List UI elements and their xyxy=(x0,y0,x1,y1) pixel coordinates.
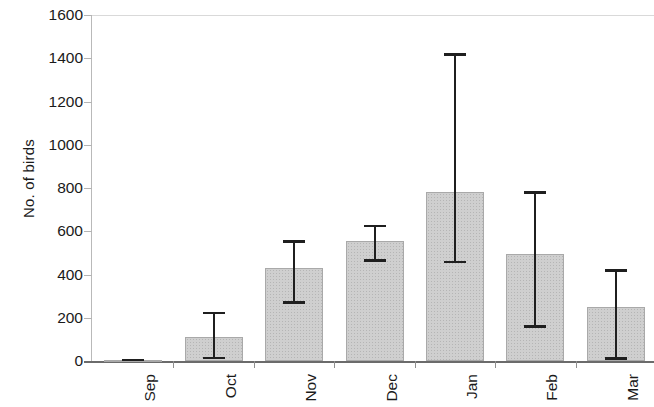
error-bar-cap-lower xyxy=(524,325,546,328)
x-tick-mark xyxy=(334,361,335,368)
x-tick-label: Feb xyxy=(543,374,561,407)
error-bar-cap-upper xyxy=(283,240,305,243)
y-tick-mark xyxy=(84,145,92,146)
y-axis-tick-labels: 02004006008001000120014001600 xyxy=(0,0,83,407)
y-tick-label: 1200 xyxy=(37,94,83,110)
y-tick-label: 1600 xyxy=(37,7,83,23)
x-tick-label: Dec xyxy=(383,374,401,407)
y-tick-label: 600 xyxy=(37,224,83,240)
error-bar-stem xyxy=(374,225,376,262)
x-tick-mark xyxy=(495,361,496,368)
bar-chart: No. of birds 020040060080010001200140016… xyxy=(0,0,654,407)
error-bar-cap-upper xyxy=(444,53,466,56)
error-bar-stem xyxy=(213,312,215,359)
x-tick-label: Jan xyxy=(463,374,481,407)
x-axis-baseline xyxy=(91,361,654,363)
x-tick-label: Nov xyxy=(302,374,320,407)
x-tick-label: Oct xyxy=(222,374,240,407)
y-tick-label: 0 xyxy=(37,353,83,369)
y-tick-mark xyxy=(84,361,92,363)
x-tick-mark xyxy=(173,361,174,368)
x-tick-mark xyxy=(254,361,255,368)
error-bar-cap-lower xyxy=(444,261,466,264)
x-tick-mark xyxy=(576,361,577,368)
error-bar-stem xyxy=(293,240,295,304)
y-tick-label: 200 xyxy=(37,310,83,326)
error-bar-cap-upper xyxy=(203,312,225,315)
y-tick-mark xyxy=(84,58,92,59)
error-bar-cap-upper xyxy=(364,225,386,228)
error-bar-cap-lower xyxy=(283,301,305,304)
error-bar-cap-upper xyxy=(524,191,546,194)
error-bar-cap-upper xyxy=(605,269,627,272)
error-bar-stem xyxy=(615,269,617,360)
x-tick-label: Mar xyxy=(624,374,642,407)
y-tick-mark xyxy=(84,318,92,319)
x-tick-mark xyxy=(415,361,416,368)
error-bar-cap-lower xyxy=(122,359,144,362)
y-tick-mark xyxy=(84,15,92,16)
y-tick-mark xyxy=(84,102,92,103)
error-bar-stem xyxy=(454,53,456,263)
x-tick-label: Sep xyxy=(141,374,159,407)
error-bar-stem xyxy=(534,191,536,328)
error-bar-cap-lower xyxy=(203,357,225,360)
y-tick-mark xyxy=(84,231,92,232)
error-bar-cap-lower xyxy=(605,357,627,360)
y-tick-label: 1400 xyxy=(37,51,83,67)
y-tick-mark xyxy=(84,275,92,276)
y-tick-label: 1000 xyxy=(37,137,83,153)
y-tick-label: 400 xyxy=(37,267,83,283)
y-tick-label: 800 xyxy=(37,180,83,196)
error-bar-cap-lower xyxy=(364,259,386,262)
y-tick-mark xyxy=(84,188,92,189)
